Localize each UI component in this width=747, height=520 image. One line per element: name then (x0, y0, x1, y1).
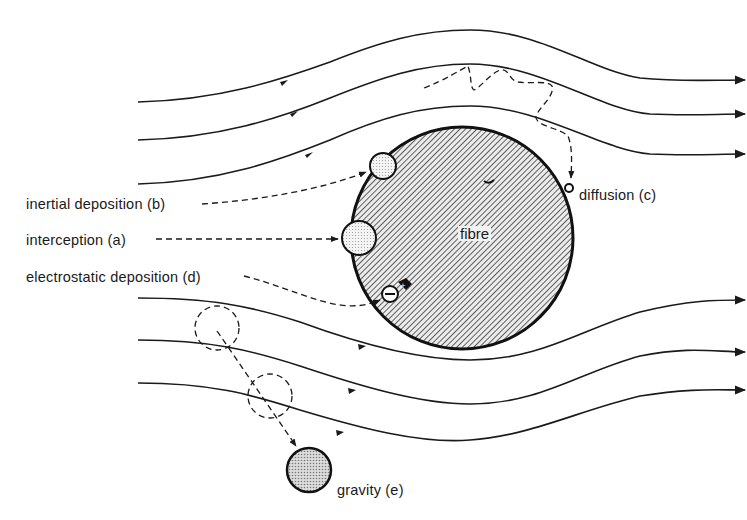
gravity-particle (287, 448, 331, 492)
label-gravity: gravity (e) (337, 483, 404, 498)
label-interception: interception (a) (26, 233, 126, 248)
streamline-6 (138, 383, 745, 441)
label-inertial-deposition: inertial deposition (b) (26, 197, 165, 212)
label-fibre: fibre (458, 226, 491, 241)
label-diffusion: diffusion (c) (579, 188, 656, 203)
interception-particle (342, 221, 376, 255)
label-electrostatic-deposition: electrostatic deposition (d) (26, 270, 201, 285)
inertial-particle (370, 153, 396, 179)
diffusion-particle (565, 184, 573, 192)
deposition-diagram: + (0, 0, 747, 520)
gravity-ghost-particle-1 (195, 306, 239, 350)
inertial-trajectory (202, 172, 366, 204)
gravity-trajectory (217, 331, 296, 446)
svg-text:+: + (400, 282, 406, 290)
